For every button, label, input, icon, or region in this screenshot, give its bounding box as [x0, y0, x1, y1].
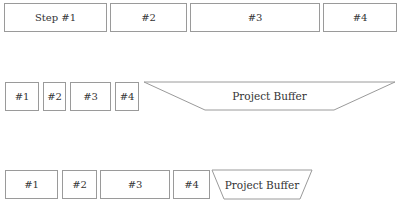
buffer-shapes — [0, 0, 402, 208]
project-buffer-label-row-3: Project Buffer — [222, 170, 302, 199]
project-buffer-label-row-2: Project Buffer — [205, 82, 334, 110]
